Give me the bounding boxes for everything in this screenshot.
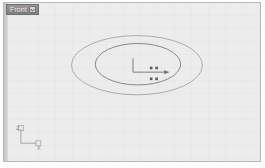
viewport-label-text: Front	[10, 6, 27, 13]
gizmo-handle[interactable]	[150, 67, 153, 70]
tripod-x-label: X	[37, 145, 41, 151]
viewport-label-tab[interactable]: Front	[6, 4, 39, 15]
chevron-down-icon[interactable]	[29, 6, 36, 13]
tripod-z-label: Z	[16, 125, 20, 131]
scene-graphics: Z X	[4, 3, 260, 161]
outer-ellipse[interactable]	[71, 36, 202, 95]
gizmo-handle[interactable]	[155, 78, 158, 81]
viewport-canvas[interactable]: Z X Front	[4, 3, 260, 161]
gizmo-handle[interactable]	[155, 67, 158, 70]
viewport-front[interactable]: Z X Front	[3, 2, 261, 162]
inner-ellipse[interactable]	[95, 43, 180, 84]
gizmo-x-arrowhead[interactable]	[164, 70, 168, 74]
viewport-screenshot: Z X Front	[0, 0, 265, 168]
gizmo-handle[interactable]	[150, 78, 153, 81]
